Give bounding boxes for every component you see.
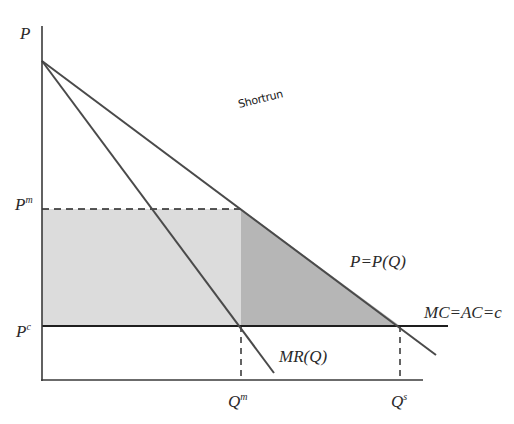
social-quantity-label: Qs [391,392,407,410]
competitive-price-label-base: P [16,322,26,341]
monopoly-price-label-base: P [15,195,25,214]
competitive-price-label-sup: c [26,321,30,332]
monopoly-quantity-label-sup: m [240,391,247,402]
social-quantity-label-sup: s [403,391,407,402]
demand-curve-label: P=P(Q) [350,253,406,270]
monopoly-price-label-sup: m [25,194,32,205]
marginal-revenue-label: MR(Q) [279,348,327,365]
y-axis-label: P [20,25,30,42]
competitive-price-label: Pc [16,322,31,340]
monopoly-quantity-label-base: Q [228,392,240,411]
monopoly-profit-region [42,209,241,326]
monopoly-diagram [0,0,514,424]
monopoly-quantity-label: Qm [228,392,248,410]
social-quantity-label-base: Q [391,392,403,411]
monopoly-price-label: Pm [15,195,33,213]
marginal-cost-label: MC=AC=c [424,304,502,321]
